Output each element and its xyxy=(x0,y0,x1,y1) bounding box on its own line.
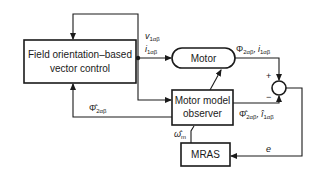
summer-plus-sign: + xyxy=(266,71,271,81)
observer-to-motor-wire xyxy=(210,70,221,90)
field-orientation-block[interactable]: Field orientation–based vector control xyxy=(24,40,136,83)
observer-label-line1: Motor model xyxy=(175,95,231,106)
mras-to-observer-wire xyxy=(191,126,194,143)
mras-block-diagram: Field orientation–based vector control M… xyxy=(0,0,318,175)
error-signal-label: e xyxy=(266,144,271,154)
estimated-flux-feedback-label: Φ̂2αβ xyxy=(89,103,107,114)
voltage-signal-label: v1αβ xyxy=(145,31,160,42)
field-orientation-label-line2: vector control xyxy=(50,63,110,74)
motor-output-label: Φ2αβ,i1αβ xyxy=(236,44,271,55)
junction-to-observer-wire xyxy=(138,58,171,100)
field-orientation-label-line1: Field orientation–based xyxy=(28,49,132,60)
mras-block[interactable]: MRAS xyxy=(181,143,230,166)
summing-junction xyxy=(272,81,286,95)
observer-output-label: Φ̂2αβ,î1αβ xyxy=(239,109,274,120)
observer-to-summer-wire xyxy=(233,96,279,103)
motor-to-summer-wire xyxy=(235,58,279,80)
speed-estimate-label: ω̂m xyxy=(174,129,186,140)
motor-label: Motor xyxy=(191,53,217,64)
summer-minus-sign: − xyxy=(266,92,271,102)
observer-label-line2: observer xyxy=(183,108,223,119)
motor-block[interactable]: Motor xyxy=(172,48,235,68)
mras-label: MRAS xyxy=(191,149,220,160)
motor-model-observer-block[interactable]: Motor model observer xyxy=(172,90,233,125)
current-signal-label: i1αβ xyxy=(145,44,158,55)
